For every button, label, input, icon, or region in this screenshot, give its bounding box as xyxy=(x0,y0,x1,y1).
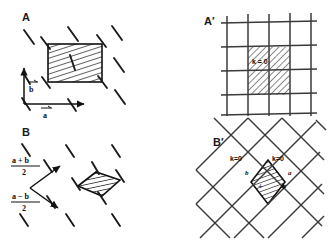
panel-a-prime-grid xyxy=(221,13,317,116)
panel-b-prime: B′ k=0 k=0 b a + ∗ xyxy=(196,118,326,238)
vector-b-label: b xyxy=(29,85,34,94)
fraction-sum-denominator: 2 xyxy=(22,168,26,177)
lattice-figure: A xyxy=(0,0,331,240)
panel-b-prime-k0-left: k=0 xyxy=(230,155,242,162)
panel-a-unit-cell xyxy=(41,35,107,88)
panel-a-prime: A′ k = 0 xyxy=(204,13,317,116)
figure-canvas: A xyxy=(0,0,331,240)
vector-a-label: a xyxy=(43,111,47,120)
fraction-diff-denominator: 2 xyxy=(22,204,26,213)
panel-b-label: B xyxy=(22,126,30,138)
panel-a: A xyxy=(22,11,125,120)
fraction-sum-label: a + b 2 xyxy=(11,156,40,177)
fraction-diff-label: a − b 2 xyxy=(11,192,40,213)
panel-a-cell-hatch xyxy=(48,44,102,82)
panel-b-prime-axis-a: a xyxy=(288,169,292,177)
vector-b-label-group: b xyxy=(28,80,38,94)
vector-a-label-group: a xyxy=(41,106,52,120)
panel-b-prime-axis-b: b xyxy=(245,169,249,177)
panel-b-prime-marker-star: ∗ xyxy=(280,182,287,191)
panel-b-prime-k0-right: k=0 xyxy=(272,155,284,162)
fraction-sum-numerator: a + b xyxy=(12,156,30,165)
panel-a-prime-label: A′ xyxy=(204,15,215,27)
panel-a-prime-k0-label: k = 0 xyxy=(252,58,268,65)
panel-b-unit-cell xyxy=(72,162,124,204)
panel-b: B a + b 2 xyxy=(11,126,124,226)
vector-diff-arrow xyxy=(30,188,58,208)
panel-b-basis-vectors: a + b 2 a − b 2 xyxy=(11,156,60,213)
panel-b-prime-marker-plus: + xyxy=(258,182,263,191)
vector-sum-arrow xyxy=(30,166,60,188)
panel-a-label: A xyxy=(22,11,30,23)
panel-b-prime-label: B′ xyxy=(213,136,224,148)
fraction-diff-numerator: a − b xyxy=(12,192,30,201)
